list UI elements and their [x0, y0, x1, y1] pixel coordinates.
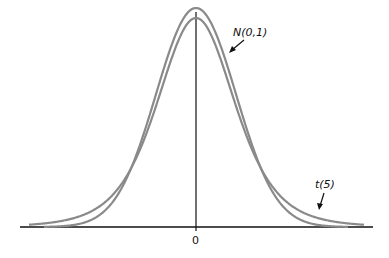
zero-tick-label: 0 — [192, 234, 199, 247]
t-arrowhead — [317, 203, 323, 210]
t-label-text: t(5) — [315, 178, 335, 191]
normal-label: N(0,1) — [233, 26, 267, 39]
t-label: t(5) — [315, 178, 335, 191]
density-plot — [0, 0, 389, 258]
normal-label-text: N(0,1) — [233, 26, 267, 39]
